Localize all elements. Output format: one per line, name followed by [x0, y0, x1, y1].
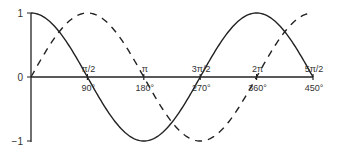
- y-tick-label: 0: [17, 72, 23, 83]
- x-tick-label-radians: 2π: [252, 64, 263, 74]
- x-tick-label-radians: 3π/2: [192, 64, 211, 74]
- x-tick-label-radians: 5π/2: [305, 64, 324, 74]
- x-tick-label-radians: π: [142, 64, 148, 74]
- y-tick-label: −1: [12, 136, 24, 147]
- axes: [27, 13, 313, 142]
- x-tick-label-degrees: 360°: [248, 83, 267, 93]
- trig-chart: 10−190°π/2180°π270°3π/2360°2π450°5π/2: [0, 0, 339, 154]
- x-tick-label-radians: π/2: [82, 64, 96, 74]
- x-tick-label-degrees: 90°: [82, 83, 96, 93]
- y-tick-label: 1: [17, 8, 23, 19]
- x-tick-label-degrees: 450°: [305, 83, 324, 93]
- x-tick-label-degrees: 180°: [135, 83, 154, 93]
- x-tick-label-degrees: 270°: [192, 83, 211, 93]
